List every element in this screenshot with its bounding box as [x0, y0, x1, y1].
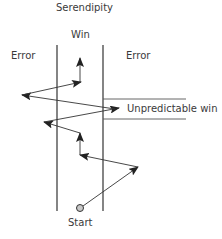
path-arrow [22, 95, 115, 109]
serendipity-diagram [0, 0, 222, 239]
path-arrow [44, 122, 80, 133]
path-arrows [22, 58, 138, 206]
start-point-icon [77, 205, 84, 212]
path-arrow [83, 167, 138, 206]
path-arrow [80, 155, 138, 167]
path-arrow [44, 108, 119, 122]
path-arrow [22, 82, 81, 95]
